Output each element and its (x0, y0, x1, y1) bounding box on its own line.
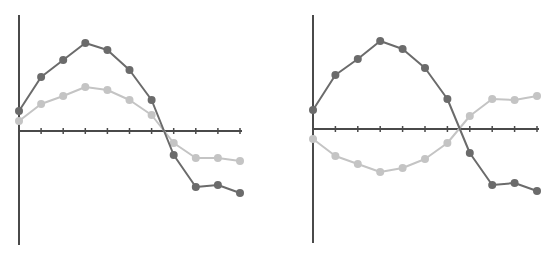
data-point-light (466, 112, 474, 120)
data-point-light (443, 139, 451, 147)
data-point-dark (421, 64, 429, 72)
data-point-dark (354, 55, 362, 63)
data-point-light (309, 135, 317, 143)
data-point-light (399, 164, 407, 172)
data-point-dark (533, 187, 541, 195)
data-point-light (488, 95, 496, 103)
data-point-dark (443, 95, 451, 103)
data-point-dark (331, 71, 339, 79)
data-point-dark (511, 179, 519, 187)
line-chart-right (0, 0, 551, 260)
data-point-light (511, 96, 519, 104)
data-point-light (533, 92, 541, 100)
data-point-dark (466, 149, 474, 157)
data-point-light (354, 160, 362, 168)
data-point-dark (309, 106, 317, 114)
chart-right-plot (309, 15, 541, 243)
data-point-light (376, 168, 384, 176)
data-point-dark (488, 181, 496, 189)
data-point-dark (399, 45, 407, 53)
series-line-dark (313, 41, 537, 191)
data-point-dark (376, 37, 384, 45)
data-point-light (331, 152, 339, 160)
chart-figure (0, 0, 551, 260)
data-point-light (421, 155, 429, 163)
